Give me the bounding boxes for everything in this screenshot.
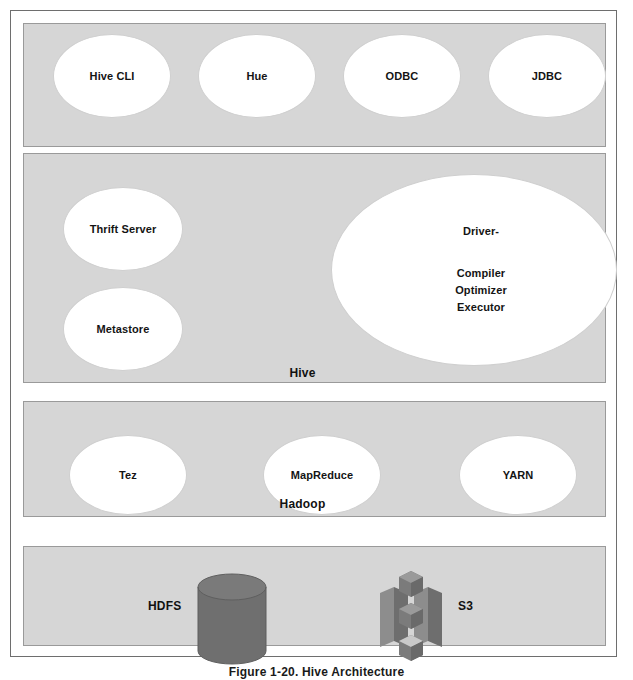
layer-band-storage	[23, 546, 606, 646]
node-jdbc[interactable]: JDBC	[488, 34, 606, 118]
storage-label-hdfs: HDFS	[148, 599, 181, 613]
layer-caption-hadoop: Hadoop	[0, 497, 616, 511]
layer-caption-hive: Hive	[0, 366, 616, 380]
node-hue[interactable]: Hue	[198, 34, 316, 118]
node-hive-cli[interactable]: Hive CLI	[53, 34, 171, 118]
node-label: Thrift Server	[90, 223, 157, 235]
node-label: Metastore	[97, 323, 150, 335]
node-label: ODBC	[386, 70, 419, 82]
storage-label-s3: S3	[458, 599, 473, 613]
driver-component-executor: Executor	[457, 299, 505, 316]
figure-caption: Figure 1-20. Hive Architecture	[0, 665, 633, 679]
node-metastore[interactable]: Metastore	[63, 287, 183, 371]
node-driver[interactable]: Driver- Compiler Optimizer Executor	[331, 174, 617, 366]
node-label: Tez	[119, 469, 137, 481]
node-label: MapReduce	[291, 469, 354, 481]
node-odbc[interactable]: ODBC	[343, 34, 461, 118]
driver-component-optimizer: Optimizer	[455, 282, 507, 299]
node-label: Hue	[246, 70, 267, 82]
node-label: JDBC	[532, 70, 562, 82]
node-label: YARN	[503, 469, 534, 481]
driver-component-list: Compiler Optimizer Executor	[455, 265, 507, 316]
figure-frame: Hive CLI Hue ODBC JDBC Thrift Server Met…	[10, 10, 617, 657]
driver-title: Driver-	[463, 225, 499, 237]
driver-component-compiler: Compiler	[457, 265, 505, 282]
s3-bucket-icon	[378, 567, 444, 667]
cylinder-database-icon	[196, 573, 268, 665]
node-thrift-server[interactable]: Thrift Server	[63, 187, 183, 271]
node-label: Hive CLI	[90, 70, 135, 82]
